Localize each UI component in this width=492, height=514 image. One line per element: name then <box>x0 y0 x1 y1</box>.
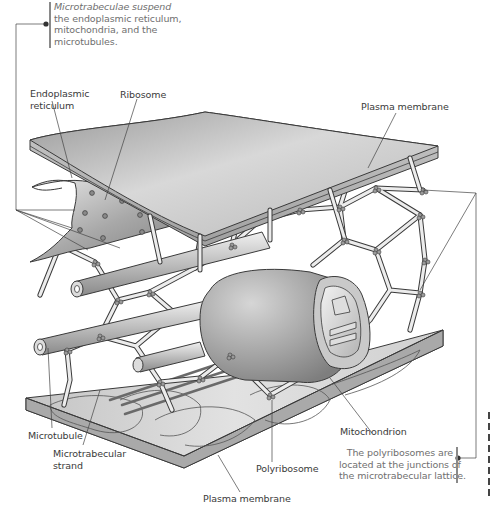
mitochondrion <box>200 269 370 382</box>
bottom-note-line-1: The polyribosomes are <box>339 447 453 459</box>
callout-marker-top <box>43 21 48 26</box>
label-microtrabecular-strand-line1: Microtrabecular <box>53 448 126 460</box>
label-microtrabecular-strand-line2: strand <box>53 460 126 472</box>
label-polyribosome: Polyribosome <box>256 463 319 475</box>
bottom-note-bar <box>456 447 458 483</box>
label-ribosome: Ribosome <box>120 89 166 101</box>
label-plasma-membrane-bottom: Plasma membrane <box>203 493 291 505</box>
label-endoplasmic-reticulum-line1: Endoplasmic <box>30 88 89 100</box>
label-microtubule: Microtubule <box>28 430 83 442</box>
top-note-line-4: microtubules. <box>54 36 181 48</box>
bottom-callout-note: The polyribosomes are located at the jun… <box>339 447 453 482</box>
top-note-bar <box>49 2 51 48</box>
bottom-note-line-3: the microtrabecular lattice. <box>339 470 453 482</box>
label-endoplasmic-reticulum: Endoplasmic reticulum <box>30 88 89 111</box>
top-note-line-2: the endoplasmic reticulum, <box>54 13 181 25</box>
top-callout-note: Microtrabeculae suspend the endoplasmic … <box>54 1 181 47</box>
bottom-note-line-2: located at the junctions of <box>339 459 453 471</box>
top-note-line-1: Microtrabeculae suspend <box>54 1 181 13</box>
label-mitochondrion: Mitochondrion <box>340 426 407 438</box>
label-plasma-membrane-top: Plasma membrane <box>361 101 449 113</box>
label-microtrabecular-strand: Microtrabecular strand <box>53 448 126 471</box>
clipped-text-fragment <box>488 412 490 496</box>
top-note-line-3: mitochondria, and the <box>54 24 181 36</box>
label-endoplasmic-reticulum-line2: reticulum <box>30 100 89 112</box>
